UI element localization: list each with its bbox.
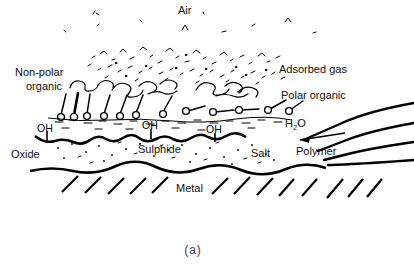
label-oxide: Oxide	[11, 148, 40, 160]
molecule-upright	[160, 96, 172, 117]
label-metal: Metal	[176, 182, 203, 194]
figure-canvas: Air Adsorbed gas Non-polar organic Polar…	[0, 0, 414, 273]
label-oh-3: OH	[206, 123, 222, 135]
molecule-flat	[286, 101, 303, 114]
hydroxyl-group-2: OH	[142, 119, 158, 139]
molecule-upright	[117, 95, 127, 119]
label-water: H2O	[285, 117, 306, 132]
label-air: Air	[178, 4, 192, 16]
polymer-arrow	[300, 133, 345, 143]
label-oh-2: OH	[142, 119, 158, 131]
label-non-polar-organic-line2: organic	[26, 80, 63, 92]
molecule-upright	[133, 95, 143, 118]
molecule-flat	[183, 106, 205, 114]
metal-hatching	[62, 176, 382, 198]
non-polar-chain-squiggles	[70, 80, 258, 97]
molecule-flat	[236, 107, 259, 114]
label-sulphide: Sulphide	[138, 143, 181, 155]
water-layer-dashes	[55, 120, 282, 130]
label-non-polar-organic-line1: Non-polar	[15, 66, 64, 78]
molecule-upright	[58, 94, 66, 120]
label-salt: Salt	[251, 147, 270, 159]
molecule-flat	[265, 100, 286, 113]
molecule-flat	[210, 109, 234, 116]
label-adsorbed-gas: Adsorbed gas	[279, 63, 347, 75]
molecule-upright	[101, 95, 110, 119]
label-oh-1: OH	[37, 122, 53, 134]
figure-caption: (a)	[184, 243, 202, 257]
label-polar-organic: Polar organic	[281, 89, 346, 101]
molecule-upright	[84, 94, 91, 119]
metal-top-boundary	[30, 162, 326, 175]
flat-polar-molecules	[183, 100, 303, 115]
adsorbed-gas-cloud	[88, 47, 285, 84]
molecule-upright	[70, 93, 78, 121]
surface-cross-section-diagram: Air Adsorbed gas Non-polar organic Polar…	[0, 0, 414, 273]
upright-amphiphile-molecules	[58, 93, 172, 121]
